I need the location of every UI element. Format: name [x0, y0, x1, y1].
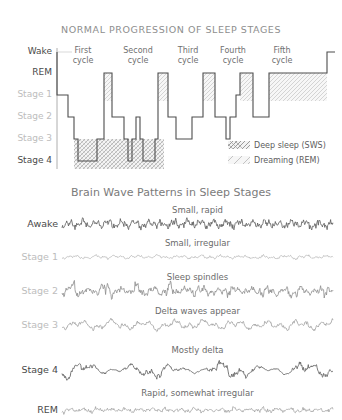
- hypnogram-axis: [57, 48, 72, 169]
- eeg-caption: Delta waves appear: [62, 307, 333, 316]
- eeg-row-label: REM: [0, 405, 58, 415]
- eeg-trace: [62, 407, 333, 415]
- eeg-caption: Sleep spindles: [62, 273, 333, 282]
- eeg-caption: Small, rapid: [62, 206, 333, 215]
- eeg-trace: [62, 280, 333, 299]
- eeg-row-label: Stage 2: [0, 286, 58, 296]
- eeg-caption: Rapid, somewhat irregular: [62, 389, 333, 398]
- y-axis-label: Stage 4: [0, 156, 52, 165]
- cycle-label-line2: cycle: [252, 56, 312, 66]
- y-axis-label: Wake: [0, 47, 52, 56]
- eeg-row-label: Stage 1: [0, 252, 58, 262]
- cycle-label-line2: cycle: [53, 56, 113, 66]
- rem-region: [158, 73, 168, 101]
- sws-region: [74, 139, 124, 169]
- eeg-trace: [62, 218, 333, 230]
- eeg-row-label: Stage 3: [0, 320, 58, 330]
- rem-region: [269, 73, 327, 101]
- legend-label: Dreaming (REM): [254, 156, 320, 166]
- eeg-svg: [0, 180, 342, 420]
- eeg-trace: [62, 255, 333, 260]
- rem-region: [104, 73, 112, 101]
- y-axis-label: Stage 1: [0, 90, 52, 99]
- legend-swatch: [228, 156, 250, 164]
- hypnogram-chart: WakeREMStage 1Stage 2Stage 3Stage 4 Firs…: [0, 0, 342, 180]
- y-axis-label: REM: [0, 68, 52, 77]
- cycle-label-line1: First: [53, 46, 113, 56]
- cycle-label: Firstcycle: [53, 46, 113, 66]
- sws-region: [124, 139, 164, 169]
- eeg-row-label: Awake: [0, 219, 58, 229]
- rem-region: [203, 73, 215, 101]
- rem-region: [240, 73, 253, 101]
- eeg-row-label: Stage 4: [0, 365, 58, 375]
- eeg-trace: [62, 318, 333, 331]
- eeg-caption: Mostly delta: [62, 346, 333, 355]
- eeg-caption: Small, irregular: [62, 239, 333, 248]
- legend-label: Deep sleep (SWS): [254, 141, 326, 151]
- y-axis-label: Stage 3: [0, 134, 52, 143]
- cycle-label-line1: Fifth: [252, 46, 312, 56]
- y-axis-label: Stage 2: [0, 112, 52, 121]
- eeg-trace: [62, 360, 333, 380]
- legend-swatch: [228, 141, 250, 149]
- cycle-label: Fifthcycle: [252, 46, 312, 66]
- eeg-traces-section: AwakeStage 1Stage 2Stage 3Stage 4REM Sma…: [0, 180, 342, 420]
